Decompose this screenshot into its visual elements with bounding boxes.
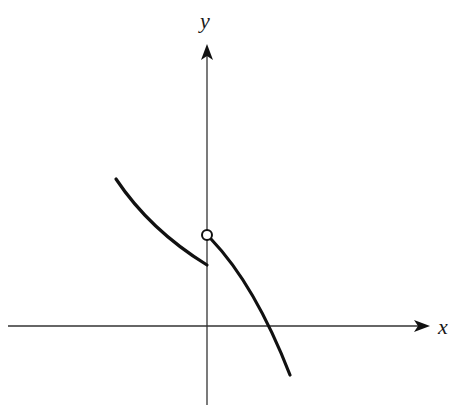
- x-axis-label: x: [438, 316, 448, 338]
- y-axis: [201, 44, 213, 405]
- x-axis: [8, 320, 430, 332]
- right-branch-curve: [211, 239, 290, 375]
- y-axis-label: y: [200, 10, 210, 32]
- open-circle-discontinuity: [202, 230, 212, 240]
- function-graph: [0, 0, 464, 419]
- left-branch-curve: [116, 179, 207, 265]
